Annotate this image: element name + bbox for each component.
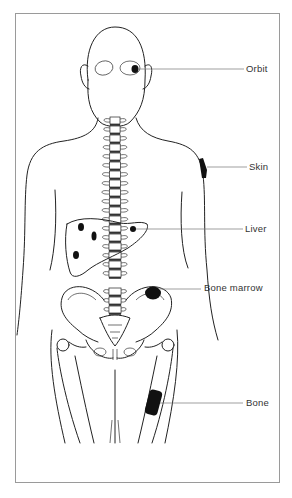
- leader-lines: [136, 69, 247, 403]
- head: [80, 27, 151, 127]
- lesions: [73, 65, 207, 416]
- liver-lesion: [78, 223, 84, 231]
- liver-label: Liver: [245, 224, 267, 234]
- orbit-label: Orbit: [246, 64, 268, 74]
- bone-marrow-lesion: [145, 287, 161, 300]
- spine: [102, 117, 128, 315]
- skin-lesion: [199, 158, 207, 178]
- bone-label: Bone: [246, 398, 269, 408]
- anatomical-figure: [0, 0, 292, 498]
- left-eye: [93, 59, 114, 77]
- liver-lesion: [73, 251, 79, 259]
- bone-marrow-label: Bone marrow: [204, 283, 263, 293]
- skin-label: Skin: [249, 162, 268, 172]
- bone-lesion: [144, 389, 163, 417]
- liver-lesion: [130, 226, 136, 232]
- orbit-lesion: [132, 65, 139, 73]
- liver-lesion: [92, 232, 97, 241]
